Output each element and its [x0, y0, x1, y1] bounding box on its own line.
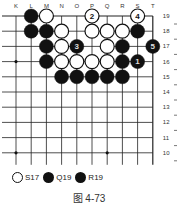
- column-label: S: [136, 3, 140, 9]
- move-number: 1: [135, 57, 140, 66]
- legend: S17 Q19 R19: [12, 172, 107, 183]
- white-stone: [39, 9, 53, 23]
- column-label: R: [120, 3, 125, 9]
- legend-item: Q19: [43, 172, 71, 183]
- row-label: 13: [163, 104, 170, 110]
- white-stone: [115, 24, 129, 38]
- black-stone: [100, 70, 114, 84]
- row-label: 16: [163, 59, 170, 65]
- legend-label: R19: [88, 173, 103, 182]
- move-number: 2: [90, 12, 95, 21]
- white-stone: [55, 55, 69, 69]
- black-stone: [55, 70, 69, 84]
- row-label: 17: [163, 43, 170, 49]
- black-stone: [115, 39, 129, 53]
- black-stone-icon: [75, 172, 86, 183]
- white-stone: [55, 24, 69, 38]
- row-label: 19: [163, 13, 170, 19]
- black-stone-icon: [43, 172, 54, 183]
- column-label: L: [30, 3, 34, 9]
- go-board: KLMNOPQRST1918171615141312111024351: [0, 0, 178, 170]
- white-stone: [100, 39, 114, 53]
- black-stone: [85, 70, 99, 84]
- black-stone: [131, 24, 145, 38]
- legend-label: S17: [25, 173, 39, 182]
- white-stone: [85, 55, 99, 69]
- move-number: 3: [75, 42, 80, 51]
- row-label: 10: [163, 150, 170, 156]
- white-stone: [85, 24, 99, 38]
- black-stone: [24, 9, 38, 23]
- white-stone: [100, 55, 114, 69]
- star-point: [14, 151, 17, 154]
- column-label: T: [151, 3, 155, 9]
- star-point: [106, 151, 109, 154]
- row-label: 14: [163, 89, 170, 95]
- legend-label: Q19: [56, 173, 71, 182]
- legend-item: S17: [12, 172, 39, 183]
- black-stone: [24, 24, 38, 38]
- column-label: P: [90, 3, 94, 9]
- black-stone: [70, 70, 84, 84]
- column-label: K: [14, 3, 18, 9]
- black-stone: [39, 55, 53, 69]
- figure-caption: 图 4-73: [0, 190, 178, 205]
- move-number: 5: [151, 42, 156, 51]
- column-label: Q: [105, 3, 110, 9]
- white-stone-icon: [12, 172, 23, 183]
- column-label: O: [74, 3, 79, 9]
- black-stone: [39, 24, 53, 38]
- row-label: 18: [163, 28, 170, 34]
- row-label: 11: [163, 135, 170, 141]
- black-stone: [39, 39, 53, 53]
- white-stone: [55, 39, 69, 53]
- white-stone: [70, 55, 84, 69]
- row-label: 15: [163, 74, 170, 80]
- row-label: 12: [163, 119, 170, 125]
- white-stone: [100, 24, 114, 38]
- star-point: [14, 60, 17, 63]
- column-label: N: [59, 3, 63, 9]
- black-stone: [115, 70, 129, 84]
- column-label: M: [44, 3, 49, 9]
- black-stone: [115, 55, 129, 69]
- legend-item: R19: [75, 172, 103, 183]
- move-number: 4: [135, 12, 140, 21]
